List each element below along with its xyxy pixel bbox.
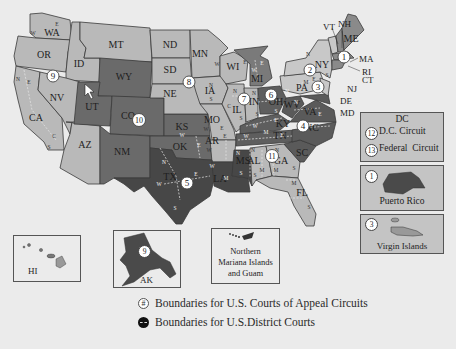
- svg-text:S: S: [209, 96, 212, 102]
- hawaii-label: HI: [28, 266, 38, 276]
- virgin-islands-shape: [383, 217, 429, 239]
- hawaii-inset: HI: [13, 235, 81, 282]
- svg-text:FL: FL: [296, 187, 308, 198]
- mariana-label-line3: and Guam: [212, 268, 279, 278]
- svg-text:UT: UT: [85, 101, 98, 112]
- svg-text:W: W: [251, 67, 257, 73]
- svg-text:VA: VA: [303, 106, 317, 117]
- svg-text:N: N: [233, 88, 237, 94]
- svg-text:S: S: [325, 72, 328, 78]
- circuit-boundary-symbol-icon: #: [138, 298, 149, 309]
- circuit-6-marker[interactable]: 6: [265, 89, 277, 101]
- svg-text:C: C: [227, 103, 231, 109]
- svg-text:AZ: AZ: [78, 139, 91, 150]
- circuit-1-badge[interactable]: 1: [365, 170, 378, 183]
- svg-text:4: 4: [301, 121, 306, 131]
- svg-text:M: M: [224, 175, 229, 181]
- puerto-rico-shape: [381, 170, 427, 196]
- svg-text:S: S: [239, 115, 242, 121]
- svg-text:N: N: [236, 150, 240, 156]
- svg-text:WV: WV: [284, 99, 301, 110]
- svg-text:SC: SC: [296, 147, 309, 158]
- state-az[interactable]: [60, 122, 100, 184]
- svg-text:KY: KY: [276, 118, 290, 129]
- legend-circuits: # Boundaries for U.S. Courts of Appeal C…: [138, 297, 368, 309]
- svg-text:AL: AL: [247, 155, 260, 166]
- virgin-islands-inset: 3 Virgin Islands: [360, 214, 444, 254]
- svg-text:KS: KS: [176, 121, 189, 132]
- circuit-13-badge[interactable]: 13: [365, 144, 378, 157]
- svg-text:M: M: [292, 180, 297, 186]
- district-boundary-symbol-icon: [138, 317, 149, 328]
- circuit-4-marker[interactable]: 4: [297, 120, 309, 132]
- circuit-2-marker[interactable]: 2: [304, 64, 316, 76]
- svg-text:WA: WA: [44, 27, 60, 38]
- svg-text:MO: MO: [204, 114, 220, 125]
- svg-text:NV: NV: [50, 92, 65, 103]
- circuit-3-badge[interactable]: 3: [365, 218, 378, 231]
- svg-text:C: C: [52, 133, 56, 139]
- circuit-12-badge[interactable]: 12: [365, 127, 378, 140]
- svg-text:N: N: [252, 90, 256, 96]
- circuit-10-marker[interactable]: 10: [133, 114, 146, 127]
- circuit-9-marker[interactable]: 9: [47, 70, 59, 82]
- svg-text:DE: DE: [340, 96, 352, 106]
- svg-text:1: 1: [342, 52, 347, 62]
- svg-text:S: S: [173, 205, 176, 211]
- svg-text:9: 9: [51, 71, 56, 81]
- svg-text:N: N: [251, 147, 255, 153]
- svg-text:N: N: [162, 159, 166, 165]
- mariana-label-line1: Northern: [212, 246, 279, 256]
- svg-text:6: 6: [269, 90, 274, 100]
- dc-circuit-label: D.C. Circuit: [379, 126, 426, 136]
- circuit-8-marker[interactable]: 8: [183, 76, 195, 88]
- svg-text:W: W: [156, 181, 162, 187]
- svg-text:10: 10: [135, 116, 143, 125]
- circuit-11-marker[interactable]: 11: [266, 150, 279, 163]
- svg-text:W: W: [243, 133, 249, 139]
- svg-text:W: W: [206, 147, 212, 153]
- svg-text:CA: CA: [29, 112, 44, 123]
- svg-text:AR: AR: [205, 135, 219, 146]
- svg-text:W: W: [214, 61, 220, 67]
- circuit-3-marker[interactable]: 3: [312, 81, 324, 93]
- svg-text:W: W: [179, 132, 185, 138]
- puerto-rico-label: Puerto Rico: [361, 196, 443, 206]
- circuit-7-marker[interactable]: 7: [238, 93, 250, 105]
- svg-text:NJ: NJ: [347, 84, 357, 94]
- svg-text:W: W: [203, 126, 209, 132]
- svg-text:M: M: [260, 167, 265, 173]
- state-fl[interactable]: [256, 176, 316, 226]
- circuit-5-marker[interactable]: 5: [181, 177, 193, 189]
- svg-text:S: S: [239, 170, 242, 176]
- legend-circuits-label: Boundaries for U.S. Courts of Appeal Cir…: [155, 297, 368, 309]
- svg-text:IL: IL: [232, 104, 241, 115]
- dc-inset: DC 12 D.C. Circuit 13 Federal Circuit: [360, 112, 444, 162]
- svg-text:M: M: [304, 79, 309, 85]
- svg-text:CT: CT: [362, 75, 374, 85]
- puerto-rico-inset: 1 Puerto Rico: [360, 165, 444, 211]
- svg-text:MI: MI: [251, 73, 263, 84]
- svg-text:M: M: [264, 129, 269, 135]
- svg-text:N: N: [285, 88, 289, 94]
- svg-text:2: 2: [308, 65, 313, 75]
- svg-text:NH: NH: [338, 19, 351, 29]
- alaska-inset: 9 AK: [113, 230, 181, 288]
- svg-text:ME: ME: [344, 33, 359, 44]
- svg-text:11: 11: [268, 152, 276, 161]
- svg-text:S: S: [274, 108, 277, 114]
- svg-text:S: S: [307, 204, 310, 210]
- svg-text:VT: VT: [323, 22, 335, 32]
- svg-text:WI: WI: [227, 61, 240, 72]
- circuit-9-ak-badge[interactable]: 9: [138, 245, 151, 258]
- svg-text:MD: MD: [340, 108, 355, 118]
- svg-text:NY: NY: [315, 59, 329, 70]
- federal-circuit-label: Federal Circuit: [379, 143, 439, 153]
- svg-text:3: 3: [316, 82, 321, 92]
- svg-text:5: 5: [185, 178, 190, 188]
- svg-text:ID: ID: [74, 58, 85, 69]
- svg-text:W: W: [30, 30, 36, 36]
- svg-text:NE: NE: [163, 88, 176, 99]
- dc-title: DC: [361, 114, 443, 124]
- circuit-1-marker[interactable]: 1: [338, 51, 350, 63]
